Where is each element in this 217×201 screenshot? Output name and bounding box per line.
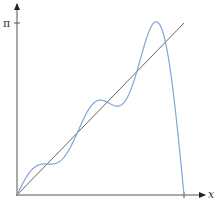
x-axis-label: x (208, 188, 215, 201)
chart: π π x (0, 0, 217, 201)
reference-line-y-equals-x (17, 23, 184, 195)
y-tick-label: π (3, 17, 10, 30)
x-tick-label: π (180, 197, 187, 201)
